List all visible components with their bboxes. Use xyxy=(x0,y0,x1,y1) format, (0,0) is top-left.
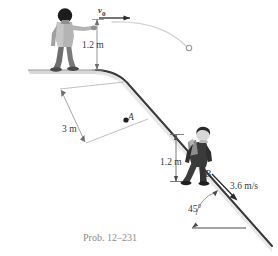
label-slope-angle: 45° xyxy=(188,205,201,215)
label-point-b: B xyxy=(205,170,211,180)
label-initial-velocity: v0 xyxy=(98,6,106,18)
figure-caption: Prob. 12–231 xyxy=(0,232,220,243)
label-slope-distance: 3 m xyxy=(62,125,77,135)
label-height-top: 1.2 m xyxy=(82,41,104,51)
label-velocity-b: 3.6 m/s xyxy=(230,182,258,192)
trajectory-arc-icon xyxy=(112,22,186,46)
trajectory-group xyxy=(112,22,192,51)
label-point-a: A xyxy=(128,113,134,123)
ball-icon xyxy=(186,45,191,50)
physics-problem-figure xyxy=(0,0,278,256)
label-height-b: 1.2 m xyxy=(160,158,182,168)
